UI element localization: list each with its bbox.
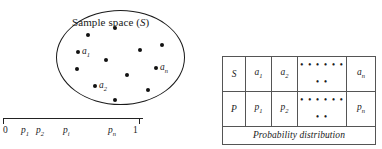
dot-10-label: a2: [99, 80, 107, 92]
sample-space-label-text: Sample space (: [72, 16, 140, 28]
table-caption: Probability distribution: [223, 127, 376, 145]
cell-S: S: [223, 57, 246, 92]
figure-canvas: Sample space (S) a1ana2 0p1p2pipn1 Sa1a2…: [0, 0, 382, 149]
nl-p2: p2: [36, 125, 44, 137]
row-outcomes: Sa1a2• • • • • • • •an: [223, 57, 376, 92]
probability-distribution-table: Sa1a2• • • • • • • •anPp1p2• • • • • • •…: [222, 56, 372, 145]
nl-pi: pi: [63, 125, 70, 137]
dot-8-label: an: [160, 62, 168, 74]
sample-space-label: Sample space (S): [72, 16, 149, 28]
cell-p2: p2: [272, 92, 298, 127]
distribution-grid: Sa1a2• • • • • • • •anPp1p2• • • • • • •…: [222, 56, 376, 145]
row-caption: Probability distribution: [223, 127, 376, 145]
sample-space-diagram: Sample space (S) a1ana2: [56, 10, 185, 105]
cell-p1: p1: [246, 92, 272, 127]
cell-dots-outcomes: • • • • • • • •: [298, 57, 347, 92]
nl-zero: 0: [3, 125, 8, 135]
tick-one: [139, 118, 140, 124]
cell-pn: pn: [347, 92, 376, 127]
tick-zero: [3, 118, 4, 124]
probability-number-line: 0p1p2pipn1: [3, 118, 143, 146]
dot-3-label: a1: [82, 46, 90, 58]
nl-pn: pn: [108, 125, 116, 137]
sample-space-label-close: ): [146, 16, 150, 28]
nl-p1: p1: [21, 125, 29, 137]
number-line-axis: [3, 118, 143, 119]
cell-a2: a2: [272, 57, 298, 92]
row-probabilities: Pp1p2• • • • • • • •pn: [223, 92, 376, 127]
cell-a1: a1: [246, 57, 272, 92]
cell-P: P: [223, 92, 246, 127]
nl-one: 1: [133, 125, 138, 135]
cell-an: an: [347, 57, 376, 92]
cell-dots-probabilities: • • • • • • • •: [298, 92, 347, 127]
